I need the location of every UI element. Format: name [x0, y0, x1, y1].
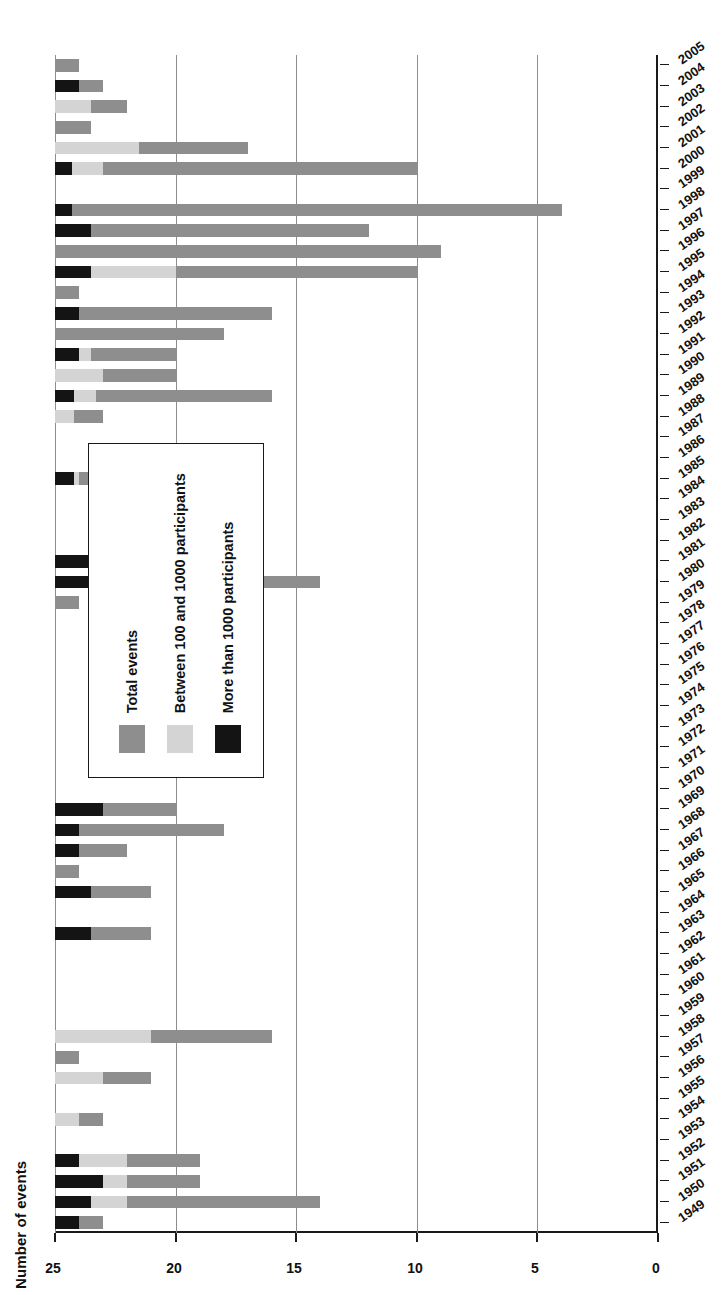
- bar-group[interactable]: [55, 906, 658, 919]
- legend-label: Between 100 and 1000 participants: [172, 473, 188, 713]
- category-tick: [660, 767, 669, 768]
- bar-group[interactable]: [55, 224, 658, 237]
- value-tick-label: 5: [518, 1260, 552, 1276]
- category-tick: [660, 705, 669, 706]
- bar-group[interactable]: [55, 245, 658, 258]
- category-label: 1983: [675, 493, 707, 522]
- bar-group[interactable]: [55, 307, 658, 320]
- legend-swatch-icon: [119, 725, 145, 753]
- bar-group[interactable]: [55, 80, 658, 93]
- category-tick: [660, 230, 669, 231]
- bar-group[interactable]: [55, 989, 658, 1002]
- bar-group[interactable]: [55, 803, 658, 816]
- legend-item[interactable]: Between 100 and 1000 participants: [167, 473, 193, 753]
- bar-group[interactable]: [55, 369, 658, 382]
- category-label: 1962: [675, 927, 707, 956]
- bar-segment-high: [55, 162, 72, 175]
- bar-group[interactable]: [55, 865, 658, 878]
- category-tick: [660, 1056, 669, 1057]
- bar-group[interactable]: [55, 142, 658, 155]
- bar-group[interactable]: [55, 1196, 658, 1209]
- value-tick: [295, 1233, 297, 1242]
- bar-segment-total: [55, 204, 562, 217]
- category-tick: [660, 1118, 669, 1119]
- bar-group[interactable]: [55, 782, 658, 795]
- legend-item[interactable]: Total events: [119, 630, 145, 754]
- bar-group[interactable]: [55, 948, 658, 961]
- category-tick: [660, 1077, 669, 1078]
- bar-segment-high: [55, 824, 79, 837]
- bar-segment-high: [55, 927, 91, 940]
- category-tick: [660, 994, 669, 995]
- bar-group[interactable]: [55, 183, 658, 196]
- category-label: 1965: [675, 865, 707, 894]
- category-label: 1949: [675, 1196, 707, 1225]
- bar-segment-mid: [55, 1113, 79, 1126]
- bar-group[interactable]: [55, 844, 658, 857]
- category-tick: [660, 250, 669, 251]
- bar-group[interactable]: [55, 431, 658, 444]
- category-tick: [660, 1201, 669, 1202]
- category-tick: [660, 64, 669, 65]
- category-tick: [660, 1036, 669, 1037]
- bar-segment-mid: [55, 1072, 103, 1085]
- category-tick: [660, 664, 669, 665]
- bar-group[interactable]: [55, 390, 658, 403]
- bar-segment-high: [55, 472, 74, 485]
- bar-segment-high: [55, 1216, 79, 1229]
- category-tick: [660, 1098, 669, 1099]
- bar-segment-mid: [55, 410, 74, 423]
- legend-item[interactable]: More than 1000 participants: [215, 522, 241, 754]
- category-label: 1992: [675, 307, 707, 336]
- bar-group[interactable]: [55, 1154, 658, 1167]
- category-tick: [660, 808, 669, 809]
- bar-group[interactable]: [55, 1051, 658, 1064]
- bar-group[interactable]: [55, 1216, 658, 1229]
- category-tick: [660, 126, 669, 127]
- bar-segment-high: [55, 390, 74, 403]
- category-tick: [660, 188, 669, 189]
- category-label: 2004: [675, 59, 707, 88]
- category-label: 1977: [675, 617, 707, 646]
- category-tick: [660, 726, 669, 727]
- bar-group[interactable]: [55, 1030, 658, 1043]
- bar-group[interactable]: [55, 1175, 658, 1188]
- bar-segment-high: [55, 204, 72, 217]
- category-tick: [660, 974, 669, 975]
- category-tick: [660, 374, 669, 375]
- bar-group[interactable]: [55, 1134, 658, 1147]
- bar-group[interactable]: [55, 968, 658, 981]
- bar-group[interactable]: [55, 266, 658, 279]
- bar-group[interactable]: [55, 1092, 658, 1105]
- bar-segment-total: [55, 596, 79, 609]
- bar-group[interactable]: [55, 886, 658, 899]
- bar-group[interactable]: [55, 410, 658, 423]
- bar-group[interactable]: [55, 1113, 658, 1126]
- category-tick: [660, 540, 669, 541]
- chart-legend: Total eventsBetween 100 and 1000 partici…: [88, 443, 264, 778]
- bar-group[interactable]: [55, 328, 658, 341]
- category-tick: [660, 581, 669, 582]
- bar-segment-total: [55, 328, 224, 341]
- bar-group[interactable]: [55, 1010, 658, 1023]
- legend-swatch-icon: [215, 725, 241, 753]
- category-tick: [660, 106, 669, 107]
- category-label: 1986: [675, 431, 707, 460]
- bar-group[interactable]: [55, 162, 658, 175]
- category-tick: [660, 395, 669, 396]
- bar-group[interactable]: [55, 927, 658, 940]
- category-tick: [660, 622, 669, 623]
- bar-segment-high: [55, 1196, 91, 1209]
- value-tick-label: 10: [398, 1260, 432, 1276]
- bar-group[interactable]: [55, 286, 658, 299]
- bar-group[interactable]: [55, 1072, 658, 1085]
- bar-group[interactable]: [55, 824, 658, 837]
- bar-group[interactable]: [55, 121, 658, 134]
- bar-group[interactable]: [55, 348, 658, 361]
- bar-group[interactable]: [55, 204, 658, 217]
- value-tick: [657, 1233, 659, 1242]
- category-label: 2001: [675, 121, 707, 150]
- bar-group[interactable]: [55, 100, 658, 113]
- bar-group[interactable]: [55, 59, 658, 72]
- category-label: 1968: [675, 803, 707, 832]
